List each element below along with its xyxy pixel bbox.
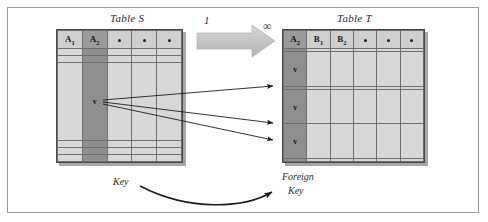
bullet-icon — [168, 39, 171, 42]
table-t-cell — [307, 158, 330, 161]
foreign-key-annotation-line2: Key — [288, 185, 304, 197]
table-s-cell — [132, 154, 157, 161]
table-row: v — [284, 52, 424, 87]
table-t-key-value-3: v — [293, 137, 297, 146]
table-row — [284, 158, 424, 161]
bullet-icon — [364, 39, 367, 42]
table-t-header-a2: A2 — [284, 31, 307, 49]
table-s-header-dot-2 — [132, 31, 157, 49]
table-s-cell — [107, 154, 132, 161]
table-t-cell — [400, 124, 423, 159]
table-t-cell — [377, 89, 400, 124]
table-t-cell — [400, 158, 423, 161]
table-s-cell — [107, 147, 132, 154]
table-s-cell — [132, 147, 157, 154]
foreign-key-annotation-line1: Foreign — [282, 171, 314, 183]
table-t-key-value-cell-1: v — [284, 52, 307, 87]
table-s-header-a1: A1 — [58, 31, 83, 49]
bullet-icon — [143, 39, 146, 42]
table-row — [58, 56, 182, 63]
table-t-key-value-cell-2: v — [284, 89, 307, 124]
table-row — [58, 154, 182, 161]
table-t-key-value-2: v — [293, 103, 297, 112]
table-t-cell — [307, 124, 330, 159]
table-s-cell — [58, 140, 83, 147]
table-t-cell — [353, 158, 376, 161]
table-t-cell — [330, 124, 353, 159]
bullet-icon — [410, 39, 413, 42]
table-s-cell — [132, 140, 157, 147]
table-t-cell — [330, 158, 353, 161]
table-t-cell — [353, 124, 376, 159]
table-row — [58, 147, 182, 154]
table-row — [58, 140, 182, 147]
table-s-cell-key — [82, 49, 107, 56]
table-t-cell — [377, 124, 400, 159]
table-s-key-value: v — [93, 97, 97, 106]
table-s-cell-key — [82, 140, 107, 147]
figure-canvas: Table S A1 A2 — [0, 0, 488, 222]
table-t-header-b1: B1 — [307, 31, 330, 49]
table-s-cell — [107, 63, 132, 141]
table-s-cell — [107, 140, 132, 147]
table-row: v — [284, 89, 424, 124]
table-s-cell — [157, 154, 182, 161]
table-t-header-dot-1 — [353, 31, 376, 49]
table-t-cell — [307, 89, 330, 124]
table-row — [58, 49, 182, 56]
table-s-cell — [58, 56, 83, 63]
table-t-header-b2: B2 — [330, 31, 353, 49]
table-s-cell-key — [82, 147, 107, 154]
table-s-cell — [157, 56, 182, 63]
table-t-cell — [400, 89, 423, 124]
table-t-cell — [353, 52, 376, 87]
table-t-header-dot-2 — [377, 31, 400, 49]
table-t-cell — [377, 158, 400, 161]
table-row: v — [58, 63, 182, 141]
table-t-key-value-cell-3: v — [284, 124, 307, 159]
table-s-cell — [58, 49, 83, 56]
cardinality-one-label: 1 — [204, 14, 210, 26]
table-s-cell-key — [82, 56, 107, 63]
table-s-header-row: A1 A2 — [58, 31, 182, 49]
table-s-cell — [58, 147, 83, 154]
table-s-table: A1 A2 — [57, 30, 182, 162]
table-t-grid: A2 B1 B2 — [282, 29, 425, 163]
table-t-cell — [330, 89, 353, 124]
table-t-key-value-1: v — [293, 65, 297, 74]
table-t-header-dot-3 — [400, 31, 423, 49]
table-s-cell — [58, 63, 83, 141]
bullet-icon — [118, 39, 121, 42]
table-s-header-dot-3 — [157, 31, 182, 49]
table-s-header-a2: A2 — [82, 31, 107, 49]
table-s-cell — [157, 147, 182, 154]
table-s-cell — [107, 56, 132, 63]
table-t-cell — [353, 89, 376, 124]
table-s-cell — [132, 63, 157, 141]
table-s-cell — [157, 140, 182, 147]
table-s-title: Table S — [110, 12, 144, 24]
table-t-table: A2 B1 B2 — [283, 30, 424, 162]
table-s-cell — [107, 49, 132, 56]
table-s-cell — [58, 154, 83, 161]
table-t-header-row: A2 B1 B2 — [284, 31, 424, 49]
cardinality-many-label: ∞ — [263, 19, 272, 34]
table-s-cell — [157, 63, 182, 141]
bullet-icon — [387, 39, 390, 42]
table-t-cell — [330, 52, 353, 87]
table-t-cell — [377, 52, 400, 87]
table-s-key-value-cell: v — [82, 63, 107, 141]
key-annotation-label: Key — [113, 176, 129, 188]
table-t-title: Table T — [337, 12, 372, 24]
table-row: v — [284, 124, 424, 159]
table-t-cell — [400, 52, 423, 87]
table-s-cell — [132, 56, 157, 63]
table-t-cell — [307, 52, 330, 87]
table-t-cell-key — [284, 158, 307, 161]
table-s-cell — [157, 49, 182, 56]
table-s-cell-key — [82, 154, 107, 161]
table-s-cell — [132, 49, 157, 56]
table-s-header-dot-1 — [107, 31, 132, 49]
table-s-grid: A1 A2 — [56, 29, 183, 163]
